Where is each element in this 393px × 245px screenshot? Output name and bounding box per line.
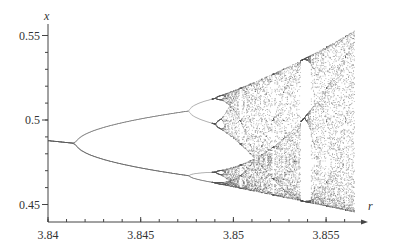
x-tick-label: 3.85 <box>223 228 244 242</box>
x-axis-label: r <box>368 199 373 213</box>
y-axis-label: x <box>43 9 50 23</box>
y-tick-label: 0.45 <box>19 198 40 212</box>
x-tick-label: 3.845 <box>127 228 154 242</box>
data-points <box>48 31 355 213</box>
y-tick-label: 0.5 <box>25 113 40 127</box>
x-tick-label: 3.84 <box>38 228 59 242</box>
bifurcation-chart: rx3.843.8453.853.8550.450.50.55 <box>0 0 393 245</box>
y-tick-label: 0.55 <box>19 29 40 43</box>
x-tick-label: 3.855 <box>313 228 340 242</box>
x-axis-arrow-icon <box>361 220 368 225</box>
